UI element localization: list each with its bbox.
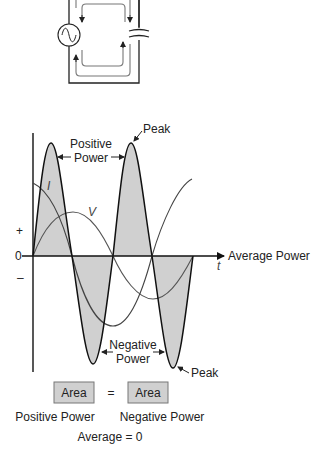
plus-label: + <box>16 224 23 238</box>
positive-area-label: Area <box>61 386 87 400</box>
equals-sign: = <box>107 386 114 400</box>
average-result: Average = 0 <box>78 430 143 444</box>
area-equation: Area = Area Positive Power Negative Powe… <box>15 382 204 444</box>
negative-area-label: Area <box>135 386 161 400</box>
circuit-wire <box>69 0 139 83</box>
positive-power-caption: Positive Power <box>15 410 94 424</box>
negative-power-label-line1: Negative <box>109 338 157 352</box>
peak-top-arrow <box>134 131 142 141</box>
average-power-label: Average Power <box>228 249 310 263</box>
negative-power-caption: Negative Power <box>120 410 205 424</box>
capacitor-icon <box>129 28 149 40</box>
circuit-diagram <box>58 0 149 83</box>
current-flow-arrows <box>76 0 130 76</box>
peak-bottom-label: Peak <box>191 366 219 380</box>
voltage-label: V <box>88 205 97 219</box>
positive-power-label-line2: Power <box>74 151 108 165</box>
time-label: t <box>217 259 221 273</box>
capacitive-power-diagram: + 0 – t Average Power I V Positive Power… <box>0 0 323 457</box>
ac-source-icon <box>58 24 80 46</box>
positive-power-label-line1: Positive <box>70 137 112 151</box>
minus-label: – <box>17 271 24 285</box>
negative-power-label-line2: Power <box>116 352 150 366</box>
power-graph: + 0 – t Average Power I V Positive Power… <box>15 122 310 380</box>
zero-label: 0 <box>15 249 22 263</box>
peak-bottom-arrow <box>178 367 189 373</box>
peak-top-label: Peak <box>143 122 171 136</box>
